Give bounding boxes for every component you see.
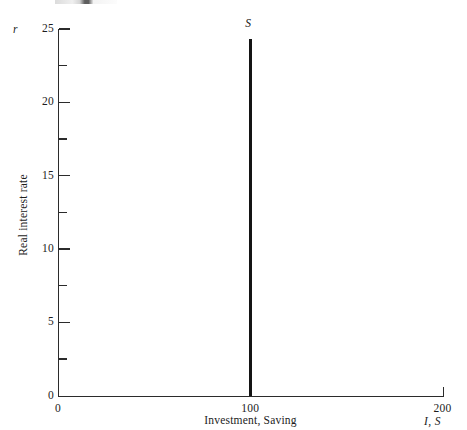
- figure-canvas: r I, S Real interest rate Investment, Sa…: [0, 0, 467, 430]
- y-tick-mark: [59, 175, 70, 176]
- y-tick-mark: [59, 285, 67, 286]
- y-tick-mark: [59, 28, 70, 29]
- x-axis-line: [58, 396, 444, 397]
- y-tick-label: 20: [20, 96, 54, 108]
- y-tick-mark: [59, 212, 67, 213]
- y-tick-mark: [59, 138, 67, 139]
- x-tick-label: 0: [38, 402, 78, 414]
- y-tick-mark: [59, 248, 70, 249]
- y-tick-label: 25: [20, 23, 54, 35]
- y-tick-label: 5: [20, 316, 54, 328]
- x-axis-right-cap: [443, 387, 444, 396]
- y-tick-label: 10: [20, 243, 54, 255]
- saving-schedule-label: S: [245, 17, 251, 29]
- scan-artifact-strip: [55, 0, 117, 4]
- y-tick-mark: [59, 322, 70, 323]
- y-axis-title: Real interest rate: [17, 145, 29, 285]
- x-axis-variable-label: I, S: [424, 415, 441, 427]
- y-axis-variable-label: r: [13, 23, 17, 35]
- x-tick-label: 200: [423, 402, 463, 414]
- y-tick-mark: [59, 358, 67, 359]
- y-tick-mark: [59, 102, 70, 103]
- y-tick-label: 15: [20, 170, 54, 182]
- y-axis-line: [58, 29, 59, 397]
- y-tick-mark: [59, 65, 67, 66]
- x-tick-label: 100: [230, 402, 270, 414]
- saving-schedule-line: [249, 39, 252, 395]
- y-tick-label: 0: [20, 390, 54, 402]
- x-axis-title: Investment, Saving: [143, 414, 358, 426]
